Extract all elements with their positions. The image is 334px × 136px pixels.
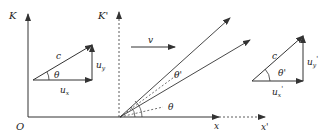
ray-theta-arc-outer xyxy=(135,101,142,117)
left-theta-arc xyxy=(47,72,49,80)
left-ux-label: ux xyxy=(60,85,70,96)
left-c-vector xyxy=(33,45,92,80)
diagram-canvas: K O x x' K' v θ c ux uy θ θ' θ' c ux' uy… xyxy=(0,0,334,136)
k-axis-label: K xyxy=(8,10,17,21)
velocity-label: v xyxy=(148,35,153,45)
right-theta-prime-label: θ' xyxy=(278,68,286,78)
ray-theta-prime-label: θ' xyxy=(174,70,182,80)
right-uy-prime-label: uy' xyxy=(307,55,318,69)
x-prime-axis-label: x' xyxy=(261,122,269,132)
aberration-diagram: K O x x' K' v θ c ux uy θ θ' θ' c ux' uy… xyxy=(0,0,334,136)
k-prime-axis-label: K' xyxy=(97,10,108,21)
left-theta-label: θ xyxy=(54,70,60,80)
ray-lower xyxy=(120,40,250,117)
ray-theta-label: θ xyxy=(168,102,174,112)
left-uy-label: uy xyxy=(96,60,106,72)
right-c-label: c xyxy=(272,51,277,61)
left-c-label: c xyxy=(56,51,61,61)
origin-label: O xyxy=(16,121,24,132)
right-ux-prime-label: ux' xyxy=(272,85,283,98)
right-theta-prime-arc xyxy=(265,69,270,81)
x-axis-label: x xyxy=(214,121,219,131)
